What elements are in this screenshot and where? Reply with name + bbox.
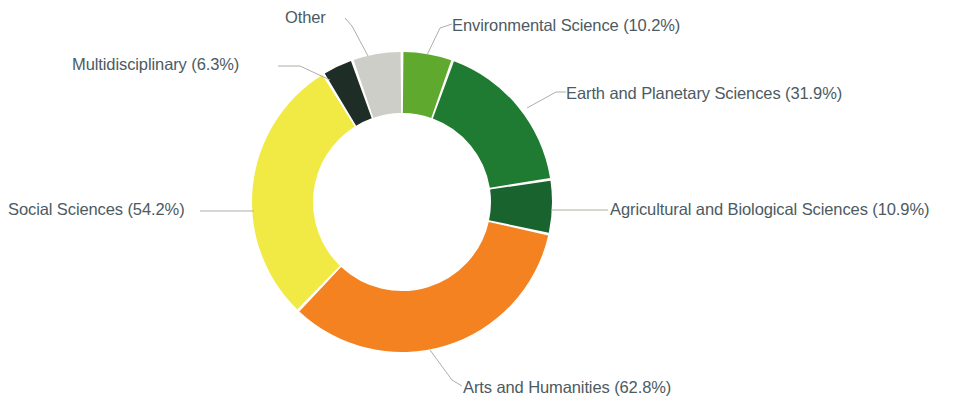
leader-line-environmental-science — [427, 24, 452, 55]
slice-label-agricultural-and-biological-sciences: Agricultural and Biological Sciences (10… — [610, 200, 929, 218]
slice-label-social-sciences: Social Sciences (54.2%) — [8, 200, 185, 218]
slice-label-environmental-science: Environmental Science (10.2%) — [452, 16, 680, 34]
donut-slice-group — [252, 52, 552, 352]
slice-label-arts-and-humanities: Arts and Humanities (62.8%) — [463, 378, 671, 396]
donut-slice-earth-and-planetary-sciences[interactable] — [433, 61, 550, 187]
donut-slice-arts-and-humanities[interactable] — [299, 222, 548, 352]
slice-label-earth-and-planetary-sciences: Earth and Planetary Sciences (31.9%) — [566, 84, 842, 102]
donut-chart: Environmental Science (10.2%) Earth and … — [0, 0, 964, 402]
slice-label-multidisciplinary: Multidisciplinary (6.3%) — [72, 55, 239, 73]
leader-line-arts-and-humanities — [430, 350, 462, 386]
leader-line-other — [345, 18, 368, 56]
leader-line-earth-and-planetary-sciences — [527, 92, 566, 108]
slice-label-other: Other — [285, 8, 326, 26]
